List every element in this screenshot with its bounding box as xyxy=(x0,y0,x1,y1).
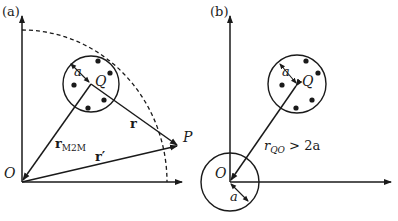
vector-rm2m xyxy=(23,84,91,180)
origin-label: O xyxy=(4,165,16,181)
panel-b: (b) O a a Q rQO > 2a xyxy=(201,4,391,211)
vector-r-label: r xyxy=(130,116,137,131)
particle-dot xyxy=(303,58,308,63)
particle-dot xyxy=(71,82,76,87)
vector-rprime-label: r′ xyxy=(95,149,106,164)
particle-dot xyxy=(101,97,106,102)
q-label: Q xyxy=(302,73,314,89)
particle-dot xyxy=(279,82,284,87)
distance-subscript: QO xyxy=(270,145,285,155)
vector-rm2m-label: rM2M xyxy=(55,136,86,153)
radius-a-label-q: a xyxy=(282,64,290,79)
radius-a-label-origin: a xyxy=(230,189,238,204)
particle-dot xyxy=(309,97,314,102)
particle-dot xyxy=(107,70,112,75)
distance-label: rQO > 2a xyxy=(264,138,320,155)
origin-label: O xyxy=(215,165,227,181)
diagram-root: (a) a Q r P rM2M r′ O ( xyxy=(0,0,398,221)
vector-r xyxy=(91,84,177,145)
vector-rm2m-subscript: M2M xyxy=(62,143,86,153)
panel-a-label: (a) xyxy=(2,4,20,19)
distance-condition: > 2a xyxy=(285,138,320,153)
p-label: P xyxy=(182,129,193,145)
multipole-diagram: (a) a Q r P rM2M r′ O ( xyxy=(0,0,398,221)
particle-dot xyxy=(315,70,320,75)
particle-dot xyxy=(95,58,100,63)
panel-b-label: (b) xyxy=(210,4,228,19)
distance-rqo-arrow xyxy=(231,86,296,180)
particle-dot xyxy=(85,105,90,110)
particle-dot xyxy=(293,105,298,110)
cluster-circle xyxy=(268,55,326,113)
q-label: Q xyxy=(95,73,107,89)
radius-a-label: a xyxy=(74,64,82,79)
panel-a: (a) a Q r P rM2M r′ O xyxy=(2,4,193,182)
